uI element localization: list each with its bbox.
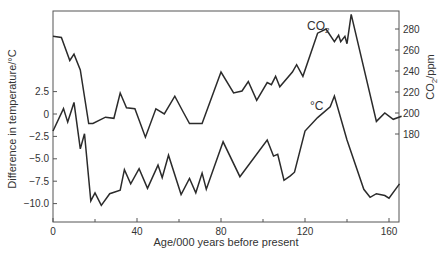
x-tick-label: 160 (381, 226, 398, 237)
y-right-tick-label: 240 (403, 66, 420, 77)
y-axis-left-ticks: 2.50−2.5−5.0−7.5−10.0 (24, 86, 57, 209)
temperature-series-label: °C (310, 99, 324, 113)
x-axis-ticks: 04080120160 (50, 218, 398, 237)
y-left-tick-label: 0 (43, 109, 49, 120)
y-axis-right-label: CO2/ppm (424, 54, 439, 99)
y-right-tick-label: 180 (403, 129, 420, 140)
y-left-tick-label: −5.0 (29, 153, 49, 164)
x-tick-label: 40 (131, 226, 143, 237)
y-axis-left-label: Difference in temperature/°C (6, 49, 18, 188)
x-axis-label: Age/000 years before present (154, 236, 299, 248)
y-left-tick-label: −10.0 (24, 198, 50, 209)
x-tick-label: 120 (297, 226, 314, 237)
y-left-tick-label: −7.5 (29, 176, 49, 187)
x-tick-label: 0 (50, 226, 56, 237)
chart: 04080120160 2.50−2.5−5.0−7.5−10.0 280260… (0, 0, 442, 255)
y-right-tick-label: 220 (403, 87, 420, 98)
co2-series-label: CO2 (307, 19, 330, 35)
temperature-series-line (53, 96, 400, 205)
y-left-tick-label: −2.5 (29, 131, 49, 142)
y-right-tick-label: 280 (403, 24, 420, 35)
y-left-tick-label: 2.5 (35, 86, 49, 97)
co2-series-line (53, 14, 402, 137)
y-right-tick-label: 260 (403, 45, 420, 56)
y-right-tick-label: 200 (403, 108, 420, 119)
